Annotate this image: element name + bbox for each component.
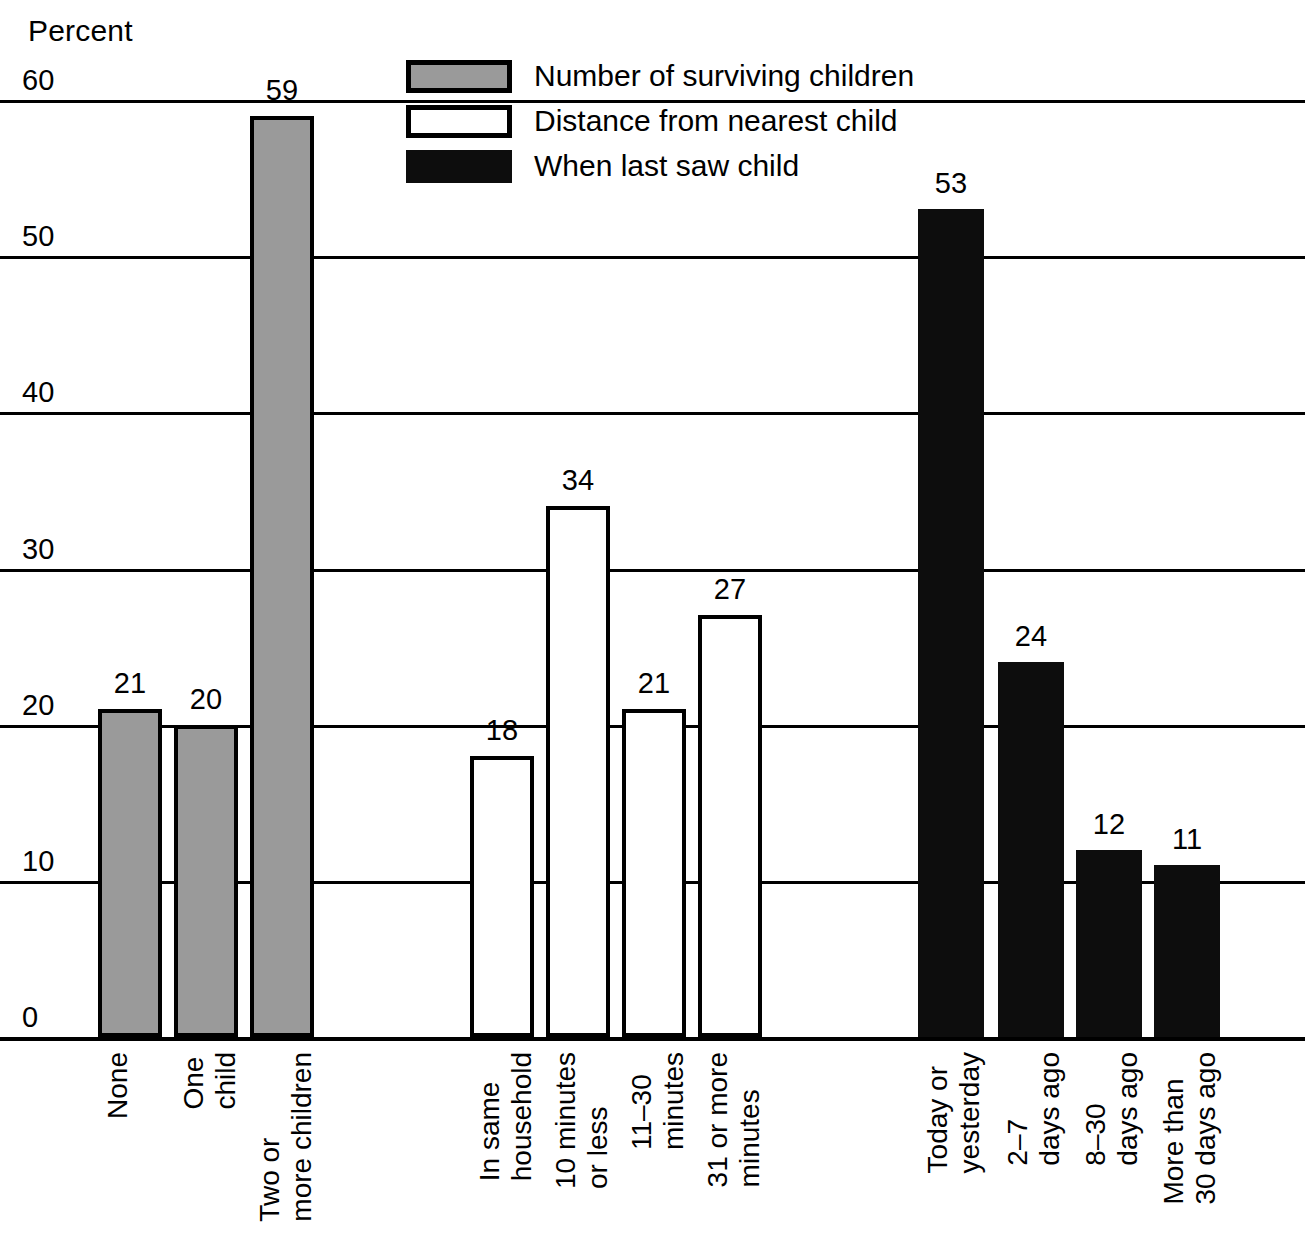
x-axis-category-label: Two or more children [254, 1052, 318, 1222]
bar [470, 756, 534, 1037]
x-axis-category-label: None [102, 1052, 134, 1119]
bar-value-label: 11 [1134, 825, 1240, 854]
bar [98, 709, 162, 1037]
legend-label: Distance from nearest child [534, 106, 898, 136]
legend-label: Number of surviving children [534, 61, 914, 91]
bar [1076, 850, 1142, 1037]
bar-value-label: 34 [526, 466, 630, 495]
bar [918, 209, 984, 1037]
y-axis-tick-label: 0 [22, 1003, 38, 1032]
x-axis-category-label: 10 minutes or less [550, 1052, 614, 1189]
y-axis-tick-label: 50 [22, 222, 54, 251]
bar-value-label: 59 [230, 76, 334, 105]
y-axis-title: Percent [28, 14, 133, 48]
bar [546, 506, 610, 1037]
x-axis-category-label: 8–30 days ago [1080, 1052, 1144, 1166]
y-axis-tick-label: 10 [22, 847, 54, 876]
x-axis-category-label: 2–7 days ago [1002, 1052, 1066, 1166]
bar-value-label: 18 [450, 716, 554, 745]
gridline-30 [0, 569, 1305, 572]
legend-swatch [406, 60, 512, 93]
bar-value-label: 27 [678, 575, 782, 604]
bar [1154, 865, 1220, 1037]
bar-value-label: 53 [898, 169, 1004, 198]
gridline-50 [0, 256, 1305, 259]
legend-item: Number of surviving children [406, 56, 914, 96]
axis-baseline [0, 1037, 1305, 1041]
y-axis-tick-label: 60 [22, 66, 54, 95]
bar [622, 709, 686, 1037]
bar [174, 725, 238, 1037]
bar-chart: Percent 01020304050602120591834212753241… [0, 0, 1305, 1243]
legend-swatch [406, 150, 512, 183]
gridline-40 [0, 412, 1305, 415]
legend-swatch [406, 105, 512, 138]
x-axis-category-label: In same household [474, 1052, 538, 1181]
x-axis-category-label: One child [178, 1052, 242, 1110]
x-axis-category-label: More than 30 days ago [1158, 1052, 1222, 1205]
x-axis-category-label: Today or yesterday [922, 1052, 986, 1173]
y-axis-tick-label: 30 [22, 535, 54, 564]
x-axis-category-label: 31 or more minutes [702, 1052, 766, 1187]
bar [998, 662, 1064, 1037]
x-axis-category-label: 11–30 minutes [626, 1052, 690, 1150]
y-axis-tick-label: 20 [22, 691, 54, 720]
legend-label: When last saw child [534, 151, 799, 181]
bar [698, 615, 762, 1037]
plot-area: 01020304050602120591834212753241211 [0, 100, 1305, 1037]
y-axis-tick-label: 40 [22, 378, 54, 407]
bar-value-label: 24 [978, 622, 1084, 651]
bar-value-label: 20 [154, 685, 258, 714]
legend-item: When last saw child [406, 146, 799, 186]
bar [250, 116, 314, 1037]
bar-value-label: 21 [602, 669, 706, 698]
legend-item: Distance from nearest child [406, 101, 898, 141]
